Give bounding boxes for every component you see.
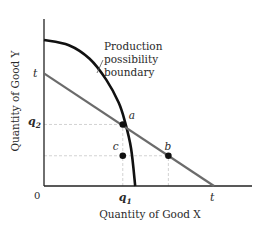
x-tick-label-q1: q1: [119, 191, 132, 206]
t-line: [44, 73, 214, 186]
y-tick-label-q2: q2: [28, 115, 41, 130]
point-label-c: c: [113, 140, 119, 152]
point-label-b: b: [164, 140, 171, 152]
y-axis-label: Quantity of Good Y: [9, 49, 21, 151]
annotation-line-3: boundary: [104, 66, 155, 78]
point-c: [119, 152, 126, 159]
annotation-line-2: possibility: [104, 53, 158, 65]
annotation-line-1: Production: [104, 40, 163, 52]
x-axis-label: Quantity of Good X: [99, 208, 201, 220]
point-label-a: a: [129, 109, 135, 121]
y-tick-labels: q2t: [28, 67, 41, 129]
point-b: [165, 152, 172, 159]
point-a: [119, 121, 126, 128]
guide-lines: [44, 124, 168, 186]
ppf-diagram: abc Production possibility boundary 0 Qu…: [0, 0, 261, 231]
y-tick-label-t: t: [33, 67, 38, 80]
x-tick-label-t: t: [210, 191, 215, 204]
x-tick-labels: q1t: [119, 191, 215, 206]
origin-label: 0: [34, 190, 40, 201]
